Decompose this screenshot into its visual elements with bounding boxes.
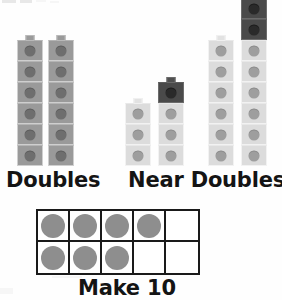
ten-frame-cell-filled[interactable] xyxy=(38,211,70,242)
cube-stud-icon xyxy=(216,87,227,98)
cube-connector-nub xyxy=(57,35,66,41)
ten-frame-counter-dot xyxy=(105,246,129,270)
cube-stud-icon xyxy=(56,150,67,161)
snap-cube xyxy=(17,103,43,124)
snap-cube xyxy=(241,40,267,61)
snap-cube xyxy=(241,103,267,124)
ten-frame-cell-filled[interactable] xyxy=(38,242,70,273)
cube-stud-icon xyxy=(166,150,177,161)
page-bleed-top-left xyxy=(2,0,16,3)
snap-cube xyxy=(125,145,151,166)
cube-stud-icon xyxy=(25,108,36,119)
ten-frame-cell-empty[interactable] xyxy=(166,211,198,242)
cube-stud-icon xyxy=(25,129,36,140)
cube-stud-icon xyxy=(249,24,260,35)
caption-doubles: Doubles xyxy=(6,168,100,192)
ten-frame-cell-filled[interactable] xyxy=(102,211,134,242)
cube-connector-nub xyxy=(167,77,176,83)
ten-frame-cell-filled[interactable] xyxy=(70,211,102,242)
snap-cube xyxy=(17,145,43,166)
snap-cube xyxy=(125,124,151,145)
ten-frame-caption: Make 10 xyxy=(78,276,176,300)
ten-frame-cell-filled[interactable] xyxy=(70,242,102,273)
cube-stud-icon xyxy=(249,3,260,14)
ten-frame-counter-dot xyxy=(41,246,65,270)
cube-stud-icon xyxy=(249,87,260,98)
snap-cube xyxy=(208,82,234,103)
cube-stud-icon xyxy=(216,45,227,56)
snap-cube xyxy=(158,145,184,166)
cube-stud-icon xyxy=(249,150,260,161)
page-bleed-top-left-2 xyxy=(20,0,32,3)
doubles-tower-right xyxy=(48,40,74,166)
cube-stud-icon xyxy=(166,129,177,140)
ten-frame-counter-dot xyxy=(73,246,97,270)
snap-cube xyxy=(48,145,74,166)
cube-stud-icon xyxy=(25,87,36,98)
cube-stud-icon xyxy=(249,108,260,119)
snap-cube xyxy=(17,82,43,103)
snap-cube xyxy=(241,0,267,19)
snap-cube xyxy=(48,61,74,82)
page-bleed-top-left-4 xyxy=(50,1,59,3)
snap-cube xyxy=(17,40,43,61)
snap-cube xyxy=(241,82,267,103)
snap-cube xyxy=(208,103,234,124)
ten-frame-counter-dot xyxy=(105,214,129,238)
snap-cube xyxy=(208,124,234,145)
ten-frame-cell-empty[interactable] xyxy=(134,242,166,273)
snap-cube xyxy=(158,82,184,103)
snap-cube xyxy=(241,145,267,166)
snap-cube xyxy=(158,103,184,124)
snap-cube xyxy=(208,61,234,82)
near-doubles-tower-a xyxy=(125,103,151,166)
worksheet-canvas: DoublesNear Doubles Make 10 xyxy=(0,0,282,300)
doubles-tower-left xyxy=(17,40,43,166)
cube-stud-icon xyxy=(249,45,260,56)
page-bleed-bottom-left xyxy=(0,288,13,294)
cube-connector-nub xyxy=(134,98,143,104)
cube-stud-icon xyxy=(25,45,36,56)
cube-stud-icon xyxy=(216,129,227,140)
snap-cube xyxy=(241,124,267,145)
cube-stud-icon xyxy=(56,108,67,119)
cube-stud-icon xyxy=(56,87,67,98)
cube-stud-icon xyxy=(56,45,67,56)
snap-cube xyxy=(125,103,151,124)
cube-stud-icon xyxy=(216,108,227,119)
ten-frame-cell-filled[interactable] xyxy=(102,242,134,273)
snap-cube xyxy=(48,40,74,61)
ten-frame-grid xyxy=(36,209,200,275)
cube-stud-icon xyxy=(249,66,260,77)
ten-frame-counter-dot xyxy=(41,214,65,238)
cube-stud-icon xyxy=(56,129,67,140)
caption-near-doubles: Near Doubles xyxy=(128,168,282,192)
near-doubles-tower-b xyxy=(158,82,184,166)
snap-cube xyxy=(241,61,267,82)
near-doubles-tower-d xyxy=(241,0,267,166)
ten-frame-counter-dot xyxy=(73,214,97,238)
snap-cube xyxy=(48,103,74,124)
snap-cube xyxy=(208,145,234,166)
cube-stud-icon xyxy=(133,129,144,140)
snap-cube xyxy=(241,19,267,40)
cube-stud-icon xyxy=(166,108,177,119)
cube-stud-icon xyxy=(133,108,144,119)
cube-connector-nub xyxy=(217,35,226,41)
ten-frame-cell-empty[interactable] xyxy=(166,242,198,273)
cube-stud-icon xyxy=(56,66,67,77)
snap-cube xyxy=(48,124,74,145)
snap-cube xyxy=(158,124,184,145)
cube-stud-icon xyxy=(166,87,177,98)
snap-cube xyxy=(208,40,234,61)
cube-connector-nub xyxy=(26,35,35,41)
ten-frame-cell-filled[interactable] xyxy=(134,211,166,242)
snap-cube xyxy=(17,61,43,82)
near-doubles-tower-c xyxy=(208,40,234,166)
page-bleed-top-left-3 xyxy=(36,0,46,2)
cube-stud-icon xyxy=(249,129,260,140)
cube-stud-icon xyxy=(25,150,36,161)
cube-stud-icon xyxy=(133,150,144,161)
cube-stud-icon xyxy=(216,150,227,161)
ten-frame-counter-dot xyxy=(137,214,161,238)
